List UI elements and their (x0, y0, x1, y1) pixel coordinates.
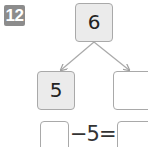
equation-blank-right[interactable] (117, 121, 148, 147)
part-right-answer-box[interactable] (113, 71, 148, 110)
equation-operator-text: −5= (70, 120, 116, 147)
part-left-box: 5 (37, 71, 75, 110)
equation-blank-left[interactable] (40, 121, 69, 147)
whole-number-box: 6 (75, 3, 113, 42)
